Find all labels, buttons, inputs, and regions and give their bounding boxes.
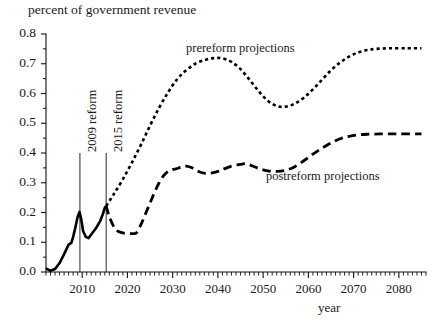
y-tick-label: 0.5	[2, 114, 36, 130]
major-ticks	[41, 34, 399, 278]
y-tick-label: 0.7	[2, 55, 36, 71]
series-label-prereform: prereform projections	[186, 41, 295, 56]
y-tick-label: 0.2	[2, 204, 36, 220]
y-tick-label: 0.8	[2, 25, 36, 41]
series-line-historical	[46, 206, 106, 271]
x-tick-label: 2010	[60, 281, 104, 297]
x-tick-label: 2040	[196, 281, 240, 297]
axes	[46, 34, 426, 272]
x-tick-label: 2060	[286, 281, 330, 297]
chart-container: percent of government revenue year 0.00.…	[0, 0, 442, 324]
x-tick-label: 2020	[105, 281, 149, 297]
annotation-label-reform-2015: 2015 reform	[111, 89, 126, 151]
y-tick-label: 0.4	[2, 144, 36, 160]
minor-ticks	[43, 49, 426, 276]
y-tick-label: 0.6	[2, 85, 36, 101]
y-tick-label: 0.3	[2, 174, 36, 190]
x-tick-label: 2030	[151, 281, 195, 297]
x-tick-label: 2070	[332, 281, 376, 297]
x-tick-label: 2080	[377, 281, 421, 297]
x-axis-title: year	[318, 300, 340, 316]
data-series	[46, 48, 421, 271]
x-tick-label: 2050	[241, 281, 285, 297]
annotation-label-reform-2009: 2009 reform	[85, 89, 100, 151]
y-tick-label: 0.0	[2, 263, 36, 279]
y-tick-label: 0.1	[2, 233, 36, 249]
series-label-postreform: postreform projections	[266, 169, 380, 184]
y-axis-title: percent of government revenue	[28, 2, 196, 18]
